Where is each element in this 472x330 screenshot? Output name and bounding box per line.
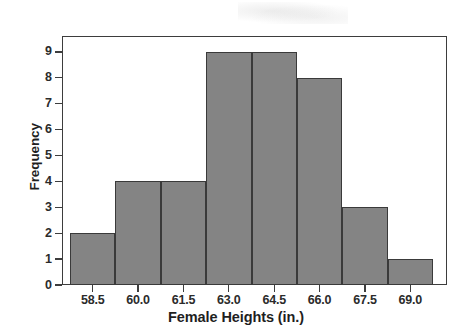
x-axis-tick	[92, 285, 93, 292]
x-axis-tick	[183, 285, 184, 292]
histogram-bar	[206, 52, 251, 285]
histogram-bar	[252, 52, 297, 285]
y-axis-tick	[55, 181, 62, 182]
histogram-bar	[70, 233, 115, 285]
y-axis-tick-label: 8	[34, 71, 52, 84]
y-axis-tick	[55, 77, 62, 78]
x-axis-tick	[137, 285, 138, 292]
y-axis-tick-label: 3	[34, 201, 52, 214]
histogram-bar	[161, 181, 206, 285]
histogram-bar	[342, 207, 387, 285]
x-axis-title: Female Heights (in.)	[0, 310, 472, 325]
y-axis-tick-label: 5	[34, 149, 52, 162]
y-axis-tick	[55, 51, 62, 52]
y-axis-tick-label: 7	[34, 97, 52, 110]
y-axis-tick-label: 6	[34, 123, 52, 136]
x-axis-tick-label: 69.0	[380, 294, 440, 307]
x-axis-tick	[274, 285, 275, 292]
y-axis-tick	[55, 129, 62, 130]
y-axis-tick	[55, 207, 62, 208]
histogram-figure: Frequency 0123456789 58.560.061.563.064.…	[0, 0, 472, 330]
y-axis-tick	[55, 284, 62, 285]
y-axis-tick-label: 9	[34, 45, 52, 58]
plot-area	[62, 36, 447, 285]
y-axis-tick-label: 1	[34, 253, 52, 266]
y-axis-tick	[55, 155, 62, 156]
scan-artifact	[238, 2, 348, 24]
histogram-bar	[115, 181, 160, 285]
y-axis-tick-label: 0	[34, 279, 52, 292]
y-axis-tick	[55, 233, 62, 234]
x-axis-tick	[364, 285, 365, 292]
x-axis-tick	[410, 285, 411, 292]
histogram-bar	[388, 259, 433, 285]
x-axis-tick	[228, 285, 229, 292]
y-axis-tick-label: 4	[34, 175, 52, 188]
y-axis-tick-label: 2	[34, 227, 52, 240]
x-axis-tick	[319, 285, 320, 292]
y-axis-tick	[55, 103, 62, 104]
histogram-bar	[297, 78, 342, 285]
y-axis-tick	[55, 258, 62, 259]
